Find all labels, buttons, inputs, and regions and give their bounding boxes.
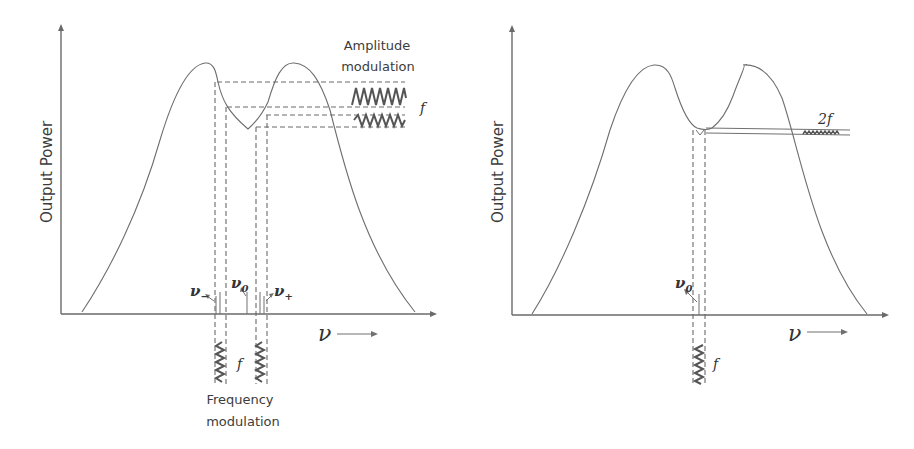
nu-zero-symbol: ν	[231, 274, 242, 292]
fm-wave-right	[256, 342, 264, 382]
x-label-arrowhead	[371, 331, 378, 337]
fm-frequency-label: f	[712, 356, 721, 372]
right-panel: Output Power 2f ν0 ν f	[489, 25, 889, 386]
power-curve	[82, 63, 415, 312]
am-label-line1: Amplitude	[344, 38, 411, 53]
fm-wave	[695, 345, 703, 384]
harmonic-wave	[803, 131, 839, 134]
minimum-marker	[696, 130, 704, 135]
harmonic-line-bottom	[706, 133, 850, 135]
y-axis-arrowhead	[509, 25, 515, 32]
fm-wave-left	[216, 342, 224, 382]
x-axis-label: ν	[788, 321, 801, 346]
nu-zero-symbol: ν	[675, 274, 686, 292]
nu-plus-symbol: ν	[274, 282, 285, 300]
nu-plus-label: ν+	[274, 282, 293, 302]
nu-minus-symbol: ν	[190, 282, 201, 300]
x-axis-label: ν	[318, 321, 331, 346]
x-axis-arrowhead	[430, 311, 437, 317]
y-axis-label: Output Power	[38, 120, 56, 223]
nu-plus-subscript: +	[284, 291, 292, 302]
nu-zero-label: ν0	[231, 274, 248, 294]
nu-minus-subscript: −	[200, 291, 208, 302]
fm-label-line1: Frequency	[206, 392, 273, 407]
fm-label-line2: modulation	[206, 414, 280, 429]
am-wave-large	[352, 88, 406, 105]
y-axis-label: Output Power	[489, 120, 507, 223]
y-axis-arrowhead	[58, 24, 64, 31]
am-label-line2: modulation	[341, 59, 415, 74]
harmonic-line-top	[706, 128, 850, 130]
nu-minus-label: ν−	[190, 282, 209, 302]
power-curve	[532, 65, 867, 314]
am-frequency-label: f	[419, 100, 428, 116]
x-label-arrowhead	[841, 329, 848, 335]
harmonic-label: 2f	[817, 111, 835, 127]
nu-zero-subscript: 0	[685, 283, 692, 294]
nu-zero-subscript: 0	[241, 283, 248, 294]
left-panel: Output Power f Amplitude modulation	[38, 24, 437, 429]
fm-frequency-label: f	[236, 356, 245, 372]
diagram-canvas: Output Power f Amplitude modulation	[0, 0, 914, 449]
am-wave-small	[354, 115, 405, 126]
x-axis-arrowhead	[882, 312, 889, 318]
nu-zero-label: ν0	[675, 274, 692, 294]
